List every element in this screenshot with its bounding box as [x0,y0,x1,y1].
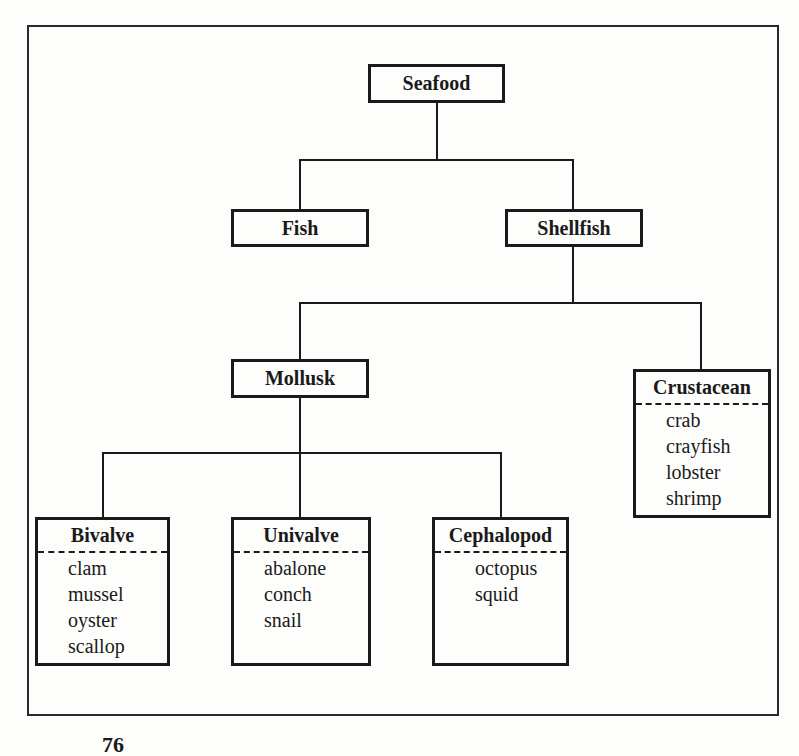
connector [299,396,301,518]
node-cephalopod: Cephalopod octopus squid [432,517,569,666]
list-item: mussel [38,581,167,607]
list-item: crab [636,407,768,433]
node-label: Crustacean [636,372,768,405]
node-label: Cephalopod [435,520,566,553]
node-univalve: Univalve abalone conch snail [231,517,371,666]
node-label: Univalve [234,520,368,553]
connector [299,302,301,360]
node-bivalve: Bivalve clam mussel oyster scallop [35,517,170,666]
connector [572,246,574,304]
connector [572,159,574,210]
list-item: lobster [636,459,768,485]
item-list: abalone conch snail [234,553,368,633]
page-number: 76 [102,734,124,756]
connector [500,452,502,518]
list-item: abalone [234,555,368,581]
list-item: snail [234,607,368,633]
item-list: octopus squid [435,553,566,607]
node-shellfish: Shellfish [505,209,643,247]
connector [102,452,104,518]
list-item: squid [435,581,566,607]
node-seafood: Seafood [368,64,505,103]
connector [299,159,574,161]
node-label: Mollusk [234,362,366,394]
item-list: clam mussel oyster scallop [38,553,167,659]
node-crustacean: Crustacean crab crayfish lobster shrimp [633,369,771,518]
list-item: oyster [38,607,167,633]
node-label: Shellfish [508,212,640,244]
connector [436,101,438,161]
connector [299,302,702,304]
list-item: shrimp [636,485,768,511]
list-item: scallop [38,633,167,659]
node-mollusk: Mollusk [231,359,369,398]
list-item: conch [234,581,368,607]
node-label: Seafood [371,67,502,99]
node-label: Fish [234,212,366,244]
connector [700,302,702,370]
node-label: Bivalve [38,520,167,553]
list-item: octopus [435,555,566,581]
list-item: crayfish [636,433,768,459]
list-item: clam [38,555,167,581]
item-list: crab crayfish lobster shrimp [636,405,768,511]
connector [102,452,502,454]
node-fish: Fish [231,209,369,247]
connector [299,159,301,210]
